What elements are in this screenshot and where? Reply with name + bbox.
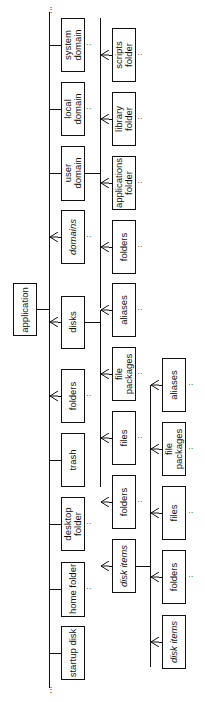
connector — [49, 173, 61, 174]
connector — [49, 460, 61, 461]
node-level3-diskitems: disk items — [162, 615, 186, 669]
node-level2-disk: aliases — [112, 283, 136, 337]
continuation-dots: ·· — [86, 233, 91, 241]
spine-level1 — [49, 12, 50, 688]
node-level3-diskitems: aliases — [162, 358, 186, 412]
crows-foot-icon — [151, 572, 159, 582]
node-level2-disk: disk items — [112, 539, 136, 593]
continuation-dots: ·· — [137, 434, 142, 442]
node-label: applications folder — [114, 158, 134, 208]
node-level1: desktop folder — [61, 497, 85, 551]
connector — [109, 310, 112, 311]
node-level1: user domain — [61, 146, 85, 201]
crows-foot-icon — [50, 391, 58, 401]
node-application: application — [13, 283, 37, 336]
node-label: files — [169, 505, 179, 522]
connector — [85, 322, 100, 323]
continuation-dots: ·· — [137, 179, 142, 187]
connector — [58, 237, 61, 238]
node-label: folders — [68, 382, 78, 411]
node-label: startup disk — [68, 629, 78, 678]
node-level2-domain: library folder — [112, 92, 136, 146]
node-label: library folder — [114, 106, 134, 132]
node-label: folders — [119, 233, 129, 262]
node-label: disks — [68, 311, 78, 333]
crows-foot-icon — [101, 50, 109, 60]
connector — [85, 173, 101, 174]
continuation-dots: ·· — [86, 520, 91, 528]
connector — [159, 385, 162, 386]
node-level2-domain: folders — [112, 220, 136, 274]
node-level3-diskitems: files — [162, 486, 186, 540]
connector — [109, 247, 112, 248]
crows-foot-icon — [101, 305, 109, 315]
continuation-dots: ·· — [188, 573, 193, 581]
continuation-dots: ·· — [137, 370, 142, 378]
node-label: domains — [68, 219, 78, 255]
crows-foot-icon — [101, 497, 109, 507]
node-label: home folder — [68, 564, 78, 614]
node-level1: folders — [61, 369, 85, 423]
crows-foot-icon — [101, 369, 109, 379]
node-label: application — [20, 287, 30, 332]
node-label: desktop folder — [63, 507, 83, 540]
crows-foot-icon — [101, 178, 109, 188]
connector — [49, 524, 61, 525]
crows-foot-icon — [50, 232, 58, 242]
continuation-dots: ·· — [137, 306, 142, 314]
node-label: disk items — [169, 621, 179, 663]
connector — [150, 385, 151, 667]
connector — [109, 566, 112, 567]
continuation-dots: ·· — [188, 509, 193, 517]
node-label: aliases — [169, 370, 179, 400]
connector — [159, 577, 162, 578]
crows-foot-icon — [151, 380, 159, 390]
node-label: folders — [169, 563, 179, 592]
continuation-dots: ·· — [188, 445, 193, 453]
connector — [37, 309, 49, 310]
node-label: system domain — [63, 29, 83, 60]
node-label: folders — [119, 488, 129, 517]
node-label: scripts folder — [114, 41, 134, 68]
node-level1: trash — [61, 433, 85, 487]
continuation-dots: ·· — [137, 51, 142, 59]
continuation-dots: ·· — [86, 105, 91, 113]
connector — [49, 109, 61, 110]
node-level2-domain: applications folder — [112, 156, 136, 210]
connector — [49, 589, 61, 590]
crows-foot-icon — [101, 114, 109, 124]
node-level1: local domain — [61, 82, 85, 136]
connector — [58, 322, 61, 323]
continuation-dots: ·· — [86, 392, 91, 400]
crows-foot-icon — [101, 242, 109, 252]
connector — [58, 396, 61, 397]
node-level1: home folder — [61, 562, 85, 617]
connector — [100, 310, 101, 487]
node-level1: system domain — [61, 18, 85, 72]
connector — [49, 653, 61, 654]
node-level2-disk: file packages — [112, 347, 136, 401]
crows-foot-icon — [151, 508, 159, 518]
crows-foot-icon — [50, 317, 58, 327]
connector — [159, 513, 162, 514]
connector — [109, 438, 112, 439]
continuation-dots: ·· — [137, 115, 142, 123]
node-label: aliases — [119, 295, 129, 325]
node-level2-domain: scripts folder — [112, 28, 136, 82]
continuation-dots: ·· — [137, 498, 142, 506]
node-level1: startup disk — [61, 626, 85, 680]
continuation-dots: ·· — [86, 41, 91, 49]
node-label: user domain — [63, 157, 83, 188]
node-label: local domain — [63, 93, 83, 124]
connector — [136, 566, 151, 567]
node-level3-diskitems: file packages — [162, 422, 186, 476]
crows-foot-icon — [151, 444, 159, 454]
node-level2-disk: folders — [112, 475, 136, 529]
connector — [109, 502, 112, 503]
connector — [109, 55, 112, 56]
node-label: trash — [68, 449, 78, 470]
crows-foot-icon — [151, 637, 159, 647]
crows-foot-icon — [101, 433, 109, 443]
connector — [49, 45, 61, 46]
connector — [100, 18, 101, 308]
